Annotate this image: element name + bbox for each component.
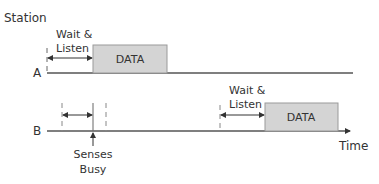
station-b-row: B Time Senses Busy Wait & Listen DATA	[33, 84, 368, 176]
station-b-wait-label-1: Wait &	[229, 84, 266, 97]
senses-busy-label-1: Senses	[74, 148, 113, 161]
station-b-wait-label-2: Listen	[229, 98, 262, 111]
station-b-label: B	[33, 124, 41, 138]
station-axis-title: Station	[4, 11, 47, 25]
station-a-label: A	[33, 66, 42, 80]
csma-timing-diagram: Station A Wait & Listen DATA B Time Sens…	[0, 0, 379, 184]
senses-busy-label-2: Busy	[80, 163, 107, 176]
station-a-wait-label-2: Listen	[56, 42, 89, 55]
station-a-data-label: DATA	[116, 53, 145, 66]
time-axis-label: Time	[338, 139, 368, 153]
station-a-row: A Wait & Listen DATA	[33, 28, 353, 80]
station-b-data-label: DATA	[287, 111, 316, 124]
diagram-canvas: Station A Wait & Listen DATA B Time Sens…	[0, 0, 379, 184]
station-a-wait-label-1: Wait &	[56, 28, 93, 41]
